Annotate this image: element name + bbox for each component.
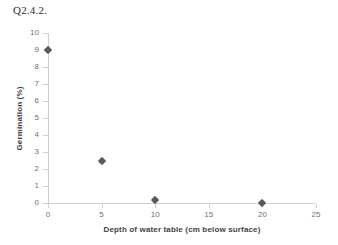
- y-tick-mark: [43, 118, 48, 119]
- chart-figure: 012345678910 0510152025 Germination (%) …: [0, 22, 338, 245]
- figure-caption: Q2.4.2.: [13, 4, 47, 16]
- y-tick-mark: [43, 152, 48, 153]
- y-axis-line: [48, 33, 49, 204]
- x-tick-label: 5: [87, 211, 117, 219]
- y-axis-title: Germination (%): [13, 33, 25, 204]
- x-tick-mark: [155, 204, 156, 208]
- y-tick-mark: [43, 84, 48, 85]
- y-tick-mark: [43, 135, 48, 136]
- x-tick-mark: [102, 204, 103, 208]
- y-axis-title-label: Germination (%): [15, 86, 24, 150]
- plot-area: [48, 33, 316, 203]
- y-tick-mark: [43, 101, 48, 102]
- x-tick-label: 0: [33, 211, 63, 219]
- y-tick-mark: [43, 186, 48, 187]
- x-axis-title-label: Depth of water table (cm below surface): [48, 225, 316, 234]
- x-tick-label: 20: [247, 211, 277, 219]
- x-tick-label: 10: [140, 211, 170, 219]
- x-tick-mark: [316, 204, 317, 208]
- x-tick-mark: [48, 204, 49, 208]
- x-tick-mark: [209, 204, 210, 208]
- y-tick-mark: [43, 67, 48, 68]
- y-tick-mark: [43, 169, 48, 170]
- y-tick-mark: [43, 33, 48, 34]
- x-axis-line: [48, 203, 316, 204]
- x-tick-label: 15: [194, 211, 224, 219]
- x-tick-label: 25: [301, 211, 331, 219]
